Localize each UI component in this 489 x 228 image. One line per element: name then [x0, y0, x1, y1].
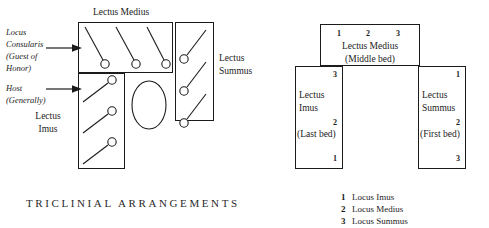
left-bed-number-3: 3 — [295, 70, 337, 79]
middle-bed-sublabel: (Middle bed) — [320, 54, 420, 65]
legend-text-2: Locus Summus — [352, 216, 408, 226]
figure-canvas: Lectus Medius Lectus Imus Lectus Summus … — [0, 0, 489, 228]
right-bed-sublabel: (First bed) — [420, 129, 460, 139]
left-bed-number-1: 1 — [295, 154, 337, 163]
left-diagram-vectors — [0, 0, 245, 200]
right-bed-number-2: 2 — [418, 118, 460, 127]
right-bed-label-line1: Lectus — [422, 90, 447, 100]
left-bed-label-line2: Imus — [299, 103, 318, 113]
page-title: TRICLINIAL ARRANGEMENTS — [26, 197, 240, 209]
middle-bed-label: Lectus Medius — [320, 41, 420, 52]
legend-number-2: 3 — [341, 216, 352, 226]
left-bed-number-2: 2 — [295, 118, 337, 127]
middle-bed-number-3: 3 — [396, 29, 400, 38]
legend-row-2: 3Locus Summus — [332, 206, 408, 228]
right-bed-number-1: 1 — [418, 70, 460, 79]
left-bed-label-line1: Lectus — [299, 90, 324, 100]
right-bed-label-line2: Summus — [422, 103, 455, 113]
middle-bed-number-1: 1 — [337, 29, 341, 38]
left-bed-sublabel: (Last bed) — [297, 129, 336, 139]
middle-bed-number-2: 2 — [366, 29, 370, 38]
right-bed-number-3: 3 — [418, 154, 460, 163]
